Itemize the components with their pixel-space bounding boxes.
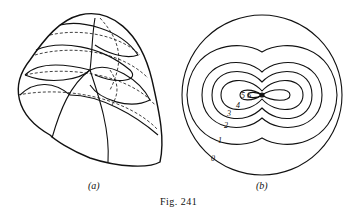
contour-label-4: 4 xyxy=(236,101,240,110)
panel-a-label: (a) xyxy=(88,180,100,191)
figure-canvas: 0 1 2 3 4 5 6 xyxy=(0,0,355,217)
contour-label-2: 2 xyxy=(224,121,228,130)
figure-caption: Fig. 241 xyxy=(160,196,197,207)
contour-label-6: 6 xyxy=(247,91,251,100)
panel-b-label: (b) xyxy=(256,180,268,191)
contour-label-1: 1 xyxy=(218,136,222,145)
panel-a-surface xyxy=(18,14,162,166)
panel-b-contours xyxy=(182,15,342,175)
center-point xyxy=(260,93,264,97)
contour-label-5: 5 xyxy=(241,91,245,100)
contour-label-3: 3 xyxy=(226,109,231,118)
contour-label-0: 0 xyxy=(211,154,215,163)
